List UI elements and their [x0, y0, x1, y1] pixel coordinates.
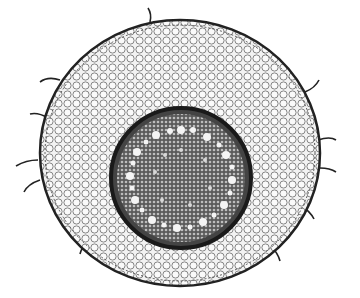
root-cross-section-illustration: [0, 0, 360, 298]
